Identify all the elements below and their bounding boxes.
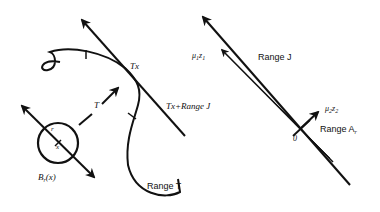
- mu1z1-vector-inner: [226, 54, 330, 158]
- map-arrow-dash1: [79, 114, 92, 125]
- tangent-label: Tx+Range J: [166, 102, 210, 111]
- origin-label: 0: [293, 135, 297, 143]
- mu2z2-vector: [301, 112, 318, 128]
- ball-axis: [22, 106, 94, 177]
- radius-label: r: [51, 126, 54, 133]
- range-j-line: [203, 17, 350, 185]
- center-label: x: [56, 144, 59, 151]
- range-j-label: Range J: [258, 53, 292, 62]
- range-t-curve: [42, 49, 180, 195]
- mu1z1-label: μ1z1: [192, 52, 205, 61]
- diagram-canvas: Tx Tx+Range J T Range T r x Br(x) Range …: [0, 0, 380, 212]
- map-arrow-dash2: [102, 88, 118, 104]
- range-t-label: Range T: [147, 182, 181, 191]
- tx-label: Tx: [130, 62, 139, 71]
- ball-label: Br(x): [38, 173, 56, 183]
- map-label: T: [94, 101, 99, 110]
- mu2z2-label: μ2z2: [325, 105, 338, 114]
- range-ar-label: Range Ar: [320, 125, 357, 135]
